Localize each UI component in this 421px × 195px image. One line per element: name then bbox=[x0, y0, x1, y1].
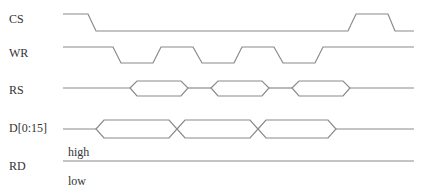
data-bus-waveform bbox=[63, 120, 414, 138]
waveforms bbox=[0, 0, 421, 195]
wr-waveform bbox=[63, 47, 414, 63]
rs-waveform bbox=[63, 81, 414, 96]
cs-waveform bbox=[63, 14, 414, 31]
